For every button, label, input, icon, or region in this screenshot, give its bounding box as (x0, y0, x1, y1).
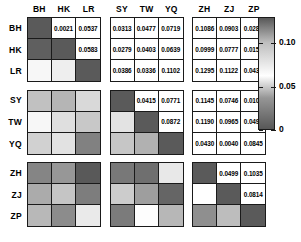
colorbar-gradient (258, 17, 275, 130)
colorbar-tick-label-1: 0.05 (279, 82, 296, 91)
colorbar: 0.100.050 (0, 0, 301, 242)
colorbar-tick-mark-left-0 (259, 43, 263, 44)
colorbar-tick-mark-left-2 (259, 130, 263, 131)
colorbar-tick-mark-0 (271, 43, 276, 44)
heatmap-figure: BHHKLRSYTWYQZHZJZP BHHKLRSYTWYQZHZJZP 0.… (0, 0, 301, 242)
colorbar-tick-label-0: 0.10 (279, 38, 296, 47)
colorbar-tick-mark-2 (271, 130, 276, 131)
colorbar-tick-label-2: 0 (279, 125, 284, 134)
colorbar-tick-mark-1 (271, 87, 276, 88)
colorbar-tick-mark-left-1 (259, 87, 263, 88)
